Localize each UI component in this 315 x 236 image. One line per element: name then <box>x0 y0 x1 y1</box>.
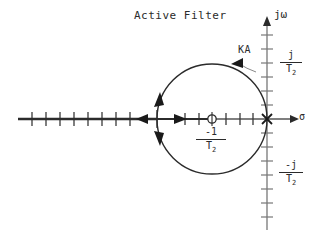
root-plot-canvas: Active Filter jω σ KA -1 T2 j T2 -j T2 <box>0 0 315 236</box>
gain-annotation-label: KA <box>238 45 251 55</box>
real-axis-left-arrow <box>136 114 148 124</box>
upper-fraction-numerator: j <box>280 50 302 61</box>
s-plane-root-locus-svg <box>0 0 315 236</box>
ka-leader-line <box>231 58 256 72</box>
real-axis-label: σ <box>299 112 305 122</box>
upper-fraction-denominator: T2 <box>280 64 302 77</box>
page-title: Active Filter <box>134 10 227 21</box>
lower-fraction-denominator: T2 <box>279 174 303 187</box>
real-axis-arrowhead <box>290 115 299 123</box>
lower-fraction-numerator: -j <box>279 160 303 171</box>
imaginary-axis-label: jω <box>274 9 287 20</box>
lower-imaginary-value-fraction: -j T2 <box>279 160 303 187</box>
zero-fraction-denominator: T2 <box>196 141 226 154</box>
imaginary-axis-arrowhead <box>263 16 271 26</box>
zero-value-fraction: -1 T2 <box>196 127 226 154</box>
zero-fraction-numerator: -1 <box>196 127 226 138</box>
upper-imaginary-value-fraction: j T2 <box>280 50 302 77</box>
zero-marker-circle <box>208 112 216 126</box>
